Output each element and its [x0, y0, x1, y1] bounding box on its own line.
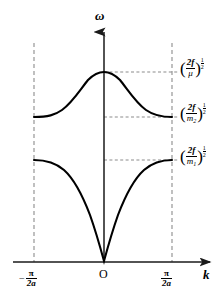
fraction-denominator: μ — [186, 69, 196, 79]
k-axis-label: k — [203, 268, 210, 281]
fraction-denominator: m1 — [186, 157, 198, 167]
fraction-pi-over-2a: π2a — [161, 269, 172, 289]
mass-subscript: 2 — [193, 118, 196, 124]
exponent-numerator: 1 — [201, 57, 204, 64]
exponent-denominator: 2 — [203, 109, 206, 115]
fraction-2f-over-m2: 2fm2 — [186, 103, 198, 124]
origin-label: O — [99, 268, 108, 280]
exponent-one-half: 12 — [203, 145, 206, 158]
fraction-2f-over-mu: 2fμ — [186, 58, 196, 79]
omega-axis-label: ω — [95, 9, 104, 22]
exponent-denominator: 2 — [203, 152, 206, 158]
optical-branch-curve — [34, 72, 172, 117]
tick-label-left-bz-edge: −π2a — [19, 269, 37, 289]
phonon-dispersion-figure: ω k O −π2a π2a (2fμ)12 (2fm2)12 (2fm1)12 — [0, 0, 222, 301]
exponent-one-half: 12 — [201, 57, 204, 70]
value-label-optical-edge: (2fm2)12 — [180, 103, 206, 124]
fraction-denominator: 2a — [161, 279, 172, 288]
value-label-acoustic-edge: (2fm1)12 — [180, 146, 206, 167]
fraction-denominator: 2a — [26, 279, 37, 288]
fraction-pi-over-2a: π2a — [26, 269, 37, 289]
minus-sign: − — [19, 274, 26, 284]
acoustic-branch-curve — [34, 160, 172, 261]
exponent-denominator: 2 — [201, 64, 204, 70]
mass-subscript: 1 — [193, 161, 196, 167]
tick-label-right-bz-edge: π2a — [161, 269, 172, 289]
fraction-denominator: m2 — [186, 114, 198, 124]
fraction-2f-over-m1: 2fm1 — [186, 146, 198, 167]
exponent-numerator: 1 — [203, 145, 206, 152]
exponent-one-half: 12 — [203, 102, 206, 115]
exponent-numerator: 1 — [203, 102, 206, 109]
value-label-optical-max: (2fμ)12 — [180, 58, 204, 79]
